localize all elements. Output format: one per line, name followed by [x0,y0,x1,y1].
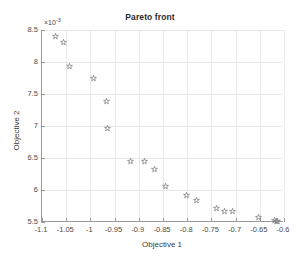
x-axis-tick [260,218,261,222]
gridline-horizontal [42,126,283,127]
x-axis-tick-label: -0.6 [277,225,290,235]
y-axis-tick [41,222,45,223]
plot-area [41,30,283,222]
x-axis-tick-label: -0.85 [153,225,170,235]
x-axis-tick [284,218,285,222]
x-axis-tick [211,218,212,222]
gridline-horizontal [42,30,283,31]
y-axis-tick-label: 6.5 [28,153,38,163]
gridline-horizontal [42,94,283,95]
y-axis-tick-label: 7 [34,121,38,131]
x-axis-tick [187,218,188,222]
data-point-marker [271,217,278,224]
x-axis-tick-label: -0.95 [105,225,122,235]
x-axis-tick [66,218,67,222]
x-axis-tick [115,218,116,222]
y-axis-tick [41,30,45,31]
y-axis-tick-label: 8.5 [28,25,38,35]
y-axis-tick [41,62,45,63]
exponent-mantissa: ×10 [44,19,56,26]
y-axis-tick [41,94,45,95]
data-point-marker [221,208,228,215]
data-point-marker [213,205,220,212]
y-axis-tick-label: 7.5 [28,89,38,99]
gridline-horizontal [42,158,283,159]
data-point-marker [273,218,280,225]
data-point-marker [103,98,110,105]
data-point-marker [52,33,59,40]
y-axis-tick-label: 8 [34,57,38,67]
x-axis-tick [139,218,140,222]
x-axis-tick-label: -0.75 [202,225,219,235]
x-axis-tick [90,218,91,222]
gridline-horizontal [42,190,283,191]
x-axis-tick-label: -1.05 [57,225,74,235]
y-axis-tick [41,158,45,159]
x-axis-label: Objective 1 [41,240,283,249]
x-axis-tick-label: -0.65 [250,225,267,235]
x-axis-tick [236,218,237,222]
x-axis-tick [163,218,164,222]
x-axis-tick-label: -0.9 [131,225,144,235]
data-point-marker [193,197,200,204]
y-axis-label: Objective 2 [12,81,21,181]
y-axis-exponent-label: ×10-3 [44,17,61,26]
exponent-power: -3 [56,17,61,23]
y-axis-tick [41,126,45,127]
y-axis-tick [41,190,45,191]
x-axis-tick-label: -1.1 [35,225,48,235]
data-point-marker [151,166,158,173]
data-point-marker [141,158,148,165]
x-axis-tick-label: -1 [86,225,93,235]
gridline-horizontal [42,62,283,63]
x-axis-tick-label: -0.7 [228,225,241,235]
figure-canvas: Pareto front ×10-3 5.566.577.588.5 -1.1-… [0,0,300,261]
data-point-marker [274,218,281,225]
x-axis-tick-label: -0.8 [180,225,193,235]
y-axis-tick-label: 6 [34,185,38,195]
gridline-vertical [284,30,285,221]
